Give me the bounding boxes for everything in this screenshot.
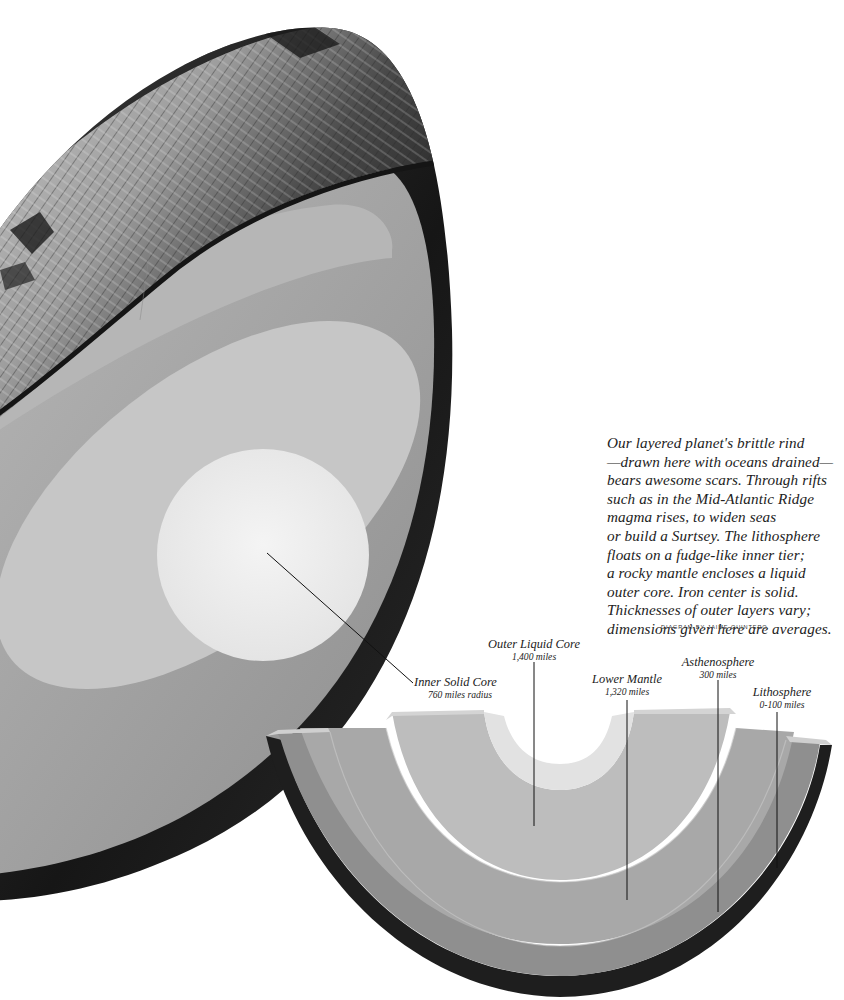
label-value: 300 miles bbox=[676, 669, 760, 681]
caption-line: —drawn here with oceans drained— bbox=[607, 453, 844, 472]
caption-line: or build a Surtsey. The lithosphere bbox=[607, 527, 844, 546]
caption-line: Our layered planet's brittle rind bbox=[607, 434, 844, 453]
caption-paragraph: Our layered planet's brittle rind —drawn… bbox=[607, 434, 844, 639]
label-lower-mantle: Lower Mantle 1,320 miles bbox=[580, 672, 674, 698]
label-name: Outer Liquid Core bbox=[484, 637, 584, 651]
label-value: 0-100 miles bbox=[742, 699, 822, 711]
globe-inner-core bbox=[157, 449, 369, 661]
caption-line: a rocky mantle encloses a liquid bbox=[607, 564, 844, 583]
label-value: 1,400 miles bbox=[484, 651, 584, 663]
label-name: Inner Solid Core bbox=[414, 675, 497, 689]
label-lithosphere: Lithosphere 0-100 miles bbox=[742, 685, 822, 711]
caption-line: Thicknesses of outer layers vary; bbox=[607, 601, 844, 620]
label-name: Lithosphere bbox=[742, 685, 822, 699]
label-value: 760 miles radius bbox=[414, 689, 497, 701]
caption-line: magma rises, to widen seas bbox=[607, 508, 844, 527]
caption-line: such as in the Mid-Atlantic Ridge bbox=[607, 490, 844, 509]
label-value: 1,320 miles bbox=[580, 686, 674, 698]
label-inner-core: Inner Solid Core 760 miles radius bbox=[414, 675, 497, 701]
cross-section-bowl bbox=[266, 708, 832, 997]
label-outer-core: Outer Liquid Core 1,400 miles bbox=[484, 637, 584, 663]
label-name: Lower Mantle bbox=[580, 672, 674, 686]
label-asthenosphere: Asthenosphere 300 miles bbox=[676, 655, 760, 681]
diagram-credit: DIAGRAM BY JAIME QUINTERO bbox=[661, 624, 768, 630]
caption-line: bears awesome scars. Through rifts bbox=[607, 471, 844, 490]
caption-line: outer core. Iron center is solid. bbox=[607, 583, 844, 602]
label-name: Asthenosphere bbox=[676, 655, 760, 669]
caption-line: floats on a fudge-like inner tier; bbox=[607, 546, 844, 565]
